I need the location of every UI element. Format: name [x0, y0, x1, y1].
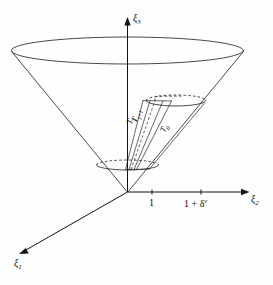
axis-xi2 — [128, 189, 250, 195]
tick-label-one-plus-delta: 1 + δν — [184, 198, 207, 209]
tick-label-one: 1 — [149, 198, 154, 208]
cone-slant-right — [128, 52, 243, 192]
cone-figure: ξ3 ξ2 ξ1 1 1 + δν Tj+1 Tj T0 — [0, 0, 273, 285]
figure-canvas — [0, 0, 273, 285]
wedge-riser-dashed — [155, 96, 183, 101]
axis-xi3 — [124, 17, 130, 192]
axis-label-xi2: ξ2 — [251, 194, 259, 207]
axis-xi1 — [19, 192, 128, 254]
cone-slant-left — [12, 52, 127, 192]
axis-label-xi1: ξ1 — [14, 258, 22, 271]
axis-label-xi3: ξ3 — [133, 13, 141, 26]
